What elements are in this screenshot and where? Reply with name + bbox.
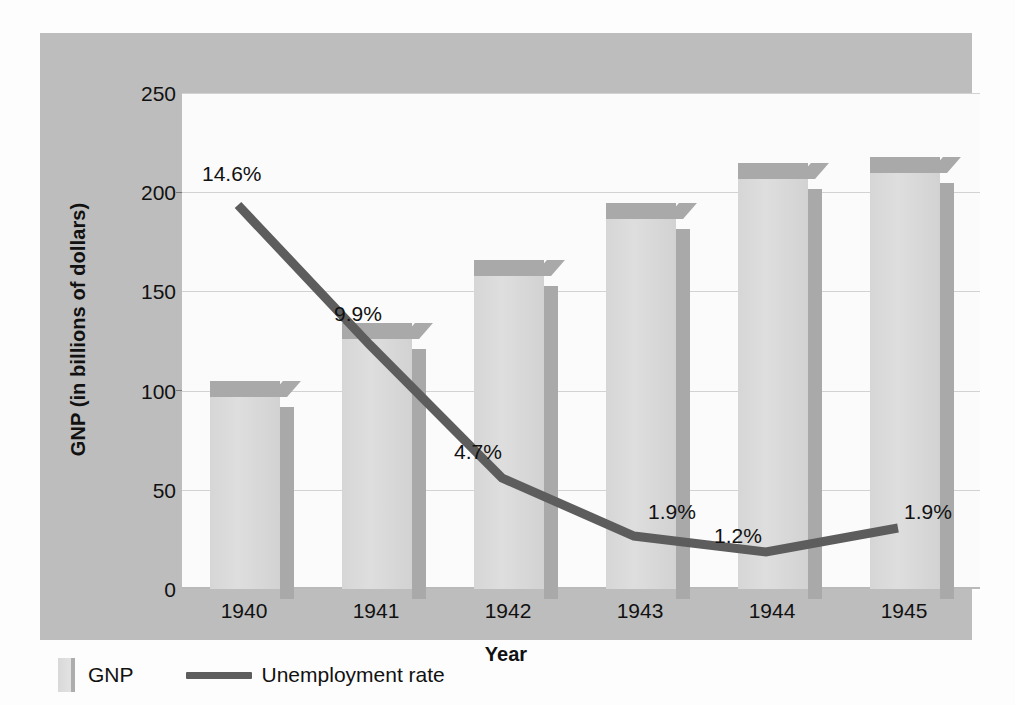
y-tick-0: 0 <box>130 579 176 600</box>
y-tick-250: 250 <box>130 83 176 104</box>
x-tick-1942: 1942 <box>485 599 532 623</box>
x-tick-1944: 1944 <box>749 599 796 623</box>
y-axis-title: GNP (in billions of dollars) <box>67 120 90 540</box>
chart-figure: GNP (in billions of dollars) 250 200 150… <box>0 0 1015 705</box>
bar-swatch-icon <box>58 658 75 692</box>
x-tick-1940: 1940 <box>221 599 268 623</box>
unemployment-line-path <box>238 205 898 552</box>
x-tick-1945: 1945 <box>881 599 928 623</box>
unemployment-line-series <box>182 93 980 589</box>
plot-area: 14.6% 9.9% 4.7% 1.9% 1.2% 1.9% <box>182 93 980 589</box>
line-swatch-icon <box>186 672 252 679</box>
y-tick-50: 50 <box>130 479 176 500</box>
point-label-1945: 1.9% <box>904 501 952 522</box>
point-label-1942: 4.7% <box>454 441 502 462</box>
point-label-1941: 9.9% <box>334 303 382 324</box>
point-label-1944: 1.2% <box>714 525 762 546</box>
point-label-1943: 1.9% <box>648 501 696 522</box>
legend-label-unemployment-rate: Unemployment rate <box>262 663 445 687</box>
chart-panel: GNP (in billions of dollars) 250 200 150… <box>40 33 972 640</box>
legend-item-unemployment-rate: Unemployment rate <box>186 663 445 687</box>
y-tick-100: 100 <box>130 380 176 401</box>
x-tick-1941: 1941 <box>353 599 400 623</box>
y-axis-ticks: 250 200 150 100 50 0 <box>126 93 176 589</box>
legend-label-gnp: GNP <box>88 663 134 687</box>
chart-legend: GNP Unemployment rate <box>58 658 445 692</box>
y-tick-200: 200 <box>130 182 176 203</box>
point-label-1940: 14.6% <box>202 163 262 184</box>
x-tick-1943: 1943 <box>617 599 664 623</box>
legend-item-gnp: GNP <box>58 658 134 692</box>
y-tick-150: 150 <box>130 281 176 302</box>
